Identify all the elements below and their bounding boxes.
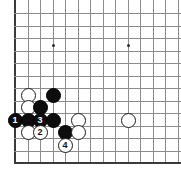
stone-move-number: 3 [37, 115, 42, 124]
stone-white [71, 125, 86, 140]
board-horizontal-line [14, 26, 181, 27]
stone-white-move-4: 4 [58, 138, 73, 153]
stone-black [46, 88, 61, 103]
board-horizontal-line [14, 76, 181, 77]
go-board-diagram: 1324 [0, 0, 181, 173]
stone-move-number: 1 [12, 115, 17, 124]
board-horizontal-line [14, 151, 181, 152]
stone-white-move-2: 2 [33, 125, 48, 140]
board-horizontal-line [14, 13, 181, 14]
star-point-2 [127, 44, 130, 47]
board-horizontal-line [14, 51, 181, 52]
stone-move-number: 4 [62, 140, 67, 149]
board-horizontal-line [14, 88, 181, 89]
board-bottom-border [14, 162, 181, 164]
board-horizontal-line [14, 38, 181, 39]
stone-move-number: 2 [37, 127, 42, 136]
board-horizontal-line [14, 63, 181, 64]
star-point-1 [52, 44, 55, 47]
stone-black [46, 113, 61, 128]
stone-white [121, 113, 136, 128]
